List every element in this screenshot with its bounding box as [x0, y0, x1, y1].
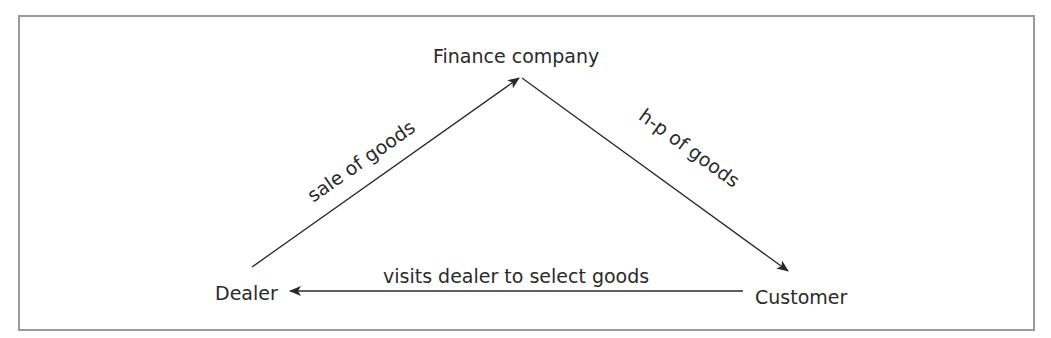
- edge-label-visits-dealer: visits dealer to select goods: [383, 265, 649, 287]
- edge-dealer-to-finance: [252, 78, 519, 267]
- node-finance-company: Finance company: [433, 45, 599, 67]
- node-dealer: Dealer: [215, 282, 278, 304]
- edge-finance-to-customer: [522, 78, 788, 271]
- node-customer: Customer: [755, 286, 847, 308]
